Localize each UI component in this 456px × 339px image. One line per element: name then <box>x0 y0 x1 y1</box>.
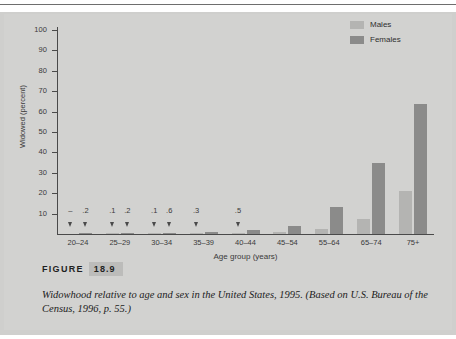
legend-label-males: Males <box>370 20 391 29</box>
y-axis-tick <box>52 152 57 153</box>
y-axis-tick-label: 10 <box>7 209 47 218</box>
y-axis-tick <box>52 132 57 133</box>
y-axis-tick <box>52 112 57 113</box>
down-arrow-icon <box>110 222 114 227</box>
bar-males <box>190 233 203 234</box>
x-axis-tick-label: 45–54 <box>265 238 309 247</box>
down-arrow-icon <box>68 222 72 227</box>
bar-males <box>232 233 245 234</box>
figure-caption: Widowhood relative to age and sex in the… <box>42 288 434 316</box>
bar-females <box>121 233 134 234</box>
figure-label-word: FIGURE <box>42 264 84 274</box>
bar-females <box>247 230 260 234</box>
y-axis-tick <box>52 193 57 194</box>
bar-value-label: .2 <box>115 206 139 215</box>
down-arrow-icon <box>236 222 240 227</box>
bar-females <box>163 233 176 234</box>
down-arrow-icon <box>125 222 129 227</box>
y-axis-tick <box>52 50 57 51</box>
x-axis-tick-label: 55–64 <box>307 238 351 247</box>
bar-males <box>357 219 370 234</box>
bar-males <box>399 191 412 234</box>
down-arrow-icon <box>152 222 156 227</box>
bar-females <box>205 232 218 234</box>
bar-females <box>372 163 385 234</box>
figure-page: Widowed (percent) Age group (years) 1020… <box>0 0 456 339</box>
bar-males <box>315 229 328 234</box>
y-axis-tick <box>52 30 57 31</box>
down-arrow-icon <box>83 222 87 227</box>
y-axis-line <box>57 27 58 235</box>
bar-chart: Widowed (percent) Age group (years) 1020… <box>0 0 456 250</box>
figure-heading: FIGURE 18.9 <box>42 262 123 276</box>
x-axis-tick-label: 20–24 <box>56 238 100 247</box>
down-arrow-icon <box>167 222 171 227</box>
x-axis-tick-label: 65–74 <box>349 238 393 247</box>
x-axis-tick-label: 40–44 <box>224 238 268 247</box>
y-axis-tick-label: 100 <box>7 25 47 34</box>
y-axis-tick <box>52 71 57 72</box>
x-axis-tick-label: 25–29 <box>98 238 142 247</box>
bar-females <box>288 226 301 234</box>
y-axis-tick-label: 30 <box>7 168 47 177</box>
bar-males <box>106 233 119 234</box>
y-axis-tick-label: 60 <box>7 107 47 116</box>
y-axis-tick <box>52 214 57 215</box>
legend-label-females: Females <box>370 35 401 44</box>
bar-females <box>330 207 343 234</box>
bar-females <box>414 104 427 234</box>
bar-value-label: .3 <box>184 206 208 215</box>
x-axis-tick-label: 30–34 <box>140 238 184 247</box>
bar-males <box>273 232 286 234</box>
x-axis-line <box>57 234 434 235</box>
legend: Males Females <box>350 20 401 50</box>
bar-value-label: .2 <box>73 206 97 215</box>
bar-males <box>148 233 161 234</box>
y-axis-tick <box>52 91 57 92</box>
figure-number-badge: 18.9 <box>89 262 123 276</box>
y-axis-tick-label: 50 <box>7 127 47 136</box>
x-axis-title: Age group (years) <box>57 252 434 261</box>
bar-females <box>79 233 92 234</box>
y-axis-tick-label: 40 <box>7 147 47 156</box>
y-axis-tick-label: 80 <box>7 66 47 75</box>
y-axis-tick <box>52 173 57 174</box>
y-axis-tick-label: 20 <box>7 188 47 197</box>
x-axis-tick-label: 35–39 <box>182 238 226 247</box>
x-axis-tick-label: 75+ <box>391 238 435 247</box>
legend-swatch-males-icon <box>350 21 364 29</box>
y-axis-tick-label: 70 <box>7 86 47 95</box>
legend-swatch-females-icon <box>350 36 364 44</box>
legend-item-males: Males <box>350 20 401 29</box>
bar-value-label: .5 <box>226 206 250 215</box>
bar-value-label: .6 <box>157 206 181 215</box>
down-arrow-icon <box>194 222 198 227</box>
legend-item-females: Females <box>350 35 401 44</box>
y-axis-tick-label: 90 <box>7 45 47 54</box>
